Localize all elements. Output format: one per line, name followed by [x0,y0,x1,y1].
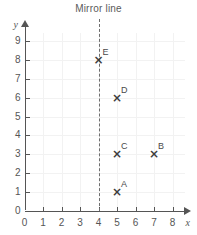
y-axis-tick-label: 7 [9,73,21,84]
gridline-horizontal [25,173,185,174]
y-axis [25,27,27,210]
x-axis-tick [136,207,137,211]
gridline-horizontal [25,41,185,42]
x-axis [25,211,184,213]
y-axis-tick [26,135,30,136]
x-axis-tick [62,207,63,211]
y-axis-arrow [21,20,29,27]
y-axis-tick [26,192,30,193]
data-point-label: B [158,141,164,151]
x-axis-tick-label: 6 [129,217,143,228]
gridline-horizontal [25,117,185,118]
chart-figure: Mirror line 0123456780123456789xy×A×B×C×… [0,0,197,235]
x-axis-arrow [184,207,191,215]
y-axis-tick-label: 9 [9,35,21,46]
data-point-label: C [121,141,128,151]
y-axis-tick [26,154,30,155]
x-axis-tick-label: 7 [147,217,161,228]
y-axis-tick-label: 8 [9,54,21,65]
y-axis-tick-label: 4 [9,129,21,140]
gridline-horizontal [25,60,185,61]
x-axis-label: x [186,217,190,228]
x-axis-tick-label: 2 [55,217,69,228]
y-axis-tick [26,60,30,61]
x-axis-tick-label: 0 [18,217,32,228]
data-point-label: D [121,85,128,95]
x-axis-tick [117,207,118,211]
x-axis-tick-label: 5 [110,217,124,228]
y-axis-tick [26,173,30,174]
y-axis-tick [26,117,30,118]
gridline-horizontal [25,98,185,99]
y-axis-tick [26,98,30,99]
data-point-label: A [121,179,127,189]
x-axis-tick-label: 4 [92,217,106,228]
y-axis-tick-label: 3 [9,148,21,159]
x-axis-tick [43,207,44,211]
data-point-label: E [103,47,109,57]
y-axis-tick [26,41,30,42]
x-axis-tick-label: 1 [36,217,50,228]
gridline-horizontal [25,192,185,193]
y-axis-tick-label: 5 [9,111,21,122]
y-axis-label: y [14,19,18,30]
x-axis-tick [154,207,155,211]
x-axis-tick [173,207,174,211]
y-axis-tick-label: 0 [9,205,21,216]
gridline-horizontal [25,154,185,155]
gridline-horizontal [25,79,185,80]
mirror-line [99,19,100,211]
y-axis-tick-label: 2 [9,167,21,178]
y-axis-tick [26,79,30,80]
y-axis-tick-label: 6 [9,92,21,103]
x-axis-tick [80,207,81,211]
x-axis-tick-label: 8 [166,217,180,228]
gridline-horizontal [25,135,185,136]
y-axis-tick-label: 1 [9,186,21,197]
plot-area: 0123456780123456789xy×A×B×C×D×E [0,0,197,235]
x-axis-tick-label: 3 [73,217,87,228]
